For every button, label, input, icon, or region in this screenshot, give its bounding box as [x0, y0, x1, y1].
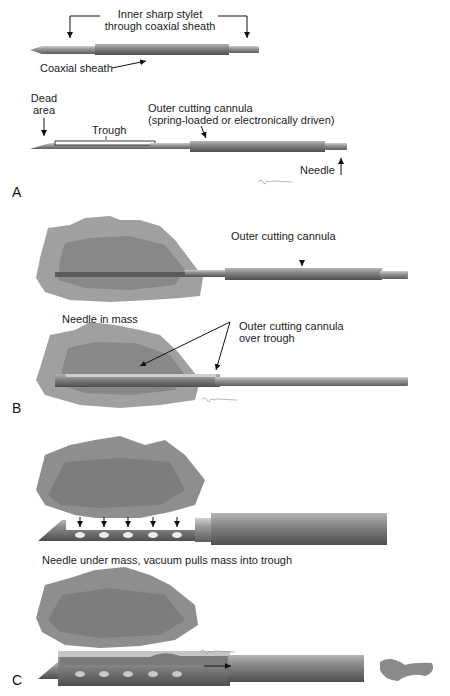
label-stylet-2: through coaxial sheath [100, 20, 220, 32]
label-outer-cannula-b: Outer cutting cannula [231, 230, 336, 242]
over-trough-arrow-2-icon [216, 322, 230, 370]
panel-letter-c: C [12, 672, 22, 688]
label-dead: Dead [28, 92, 60, 104]
label-needle: Needle [300, 164, 335, 176]
label-vacuum-caption: Needle under mass, vacuum pulls mass int… [42, 554, 292, 566]
mass-c1-inner [48, 458, 185, 508]
cannula-arrow-icon [201, 126, 206, 138]
panel-b [36, 216, 408, 408]
label-stylet: Inner sharp stylet [100, 8, 220, 20]
label-outer-cannula: Outer cutting cannula [148, 102, 253, 114]
cutting-needle [30, 141, 347, 152]
stylet-arrow-left-icon [70, 16, 100, 38]
label-needle-in-mass: Needle in mass [62, 313, 138, 325]
label-over-trough-2: over trough [239, 332, 295, 344]
label-dead-area: area [28, 104, 60, 116]
label-over-trough: Outer cutting cannula [239, 320, 344, 332]
sheath-arrow-icon [112, 61, 146, 68]
coaxial-needle [30, 44, 259, 55]
label-outer-cannula-2: (spring-loaded or electronically driven) [148, 114, 334, 126]
label-trough: Trough [92, 124, 126, 136]
stylet-arrow-right-icon [218, 16, 247, 38]
label-coaxial-sheath: Coaxial sheath [40, 62, 113, 74]
panel-letter-b: B [12, 400, 21, 416]
panel-letter-a: A [12, 184, 21, 200]
tissue-sample [380, 659, 433, 681]
mass-c2-inner [48, 588, 185, 638]
panel-a [30, 16, 347, 184]
signature [258, 180, 293, 184]
